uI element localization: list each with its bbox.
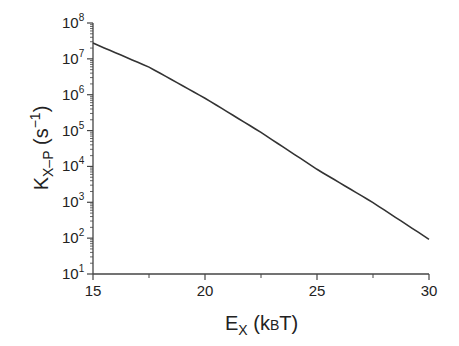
y-tick-label: 104 xyxy=(62,155,85,174)
x-tick-label: 20 xyxy=(197,282,214,299)
x-tick-label: 25 xyxy=(309,282,326,299)
x-axis-title: EX (kBT) xyxy=(225,312,298,338)
y-axis-ticks: 101102103104105106107108 xyxy=(62,12,93,282)
data-line xyxy=(93,43,429,239)
y-tick-label: 105 xyxy=(62,120,85,139)
y-tick-label: 107 xyxy=(62,48,85,67)
x-axis-ticks: 15202530 xyxy=(85,274,438,299)
x-tick-label: 15 xyxy=(85,282,102,299)
y-tick-label: 101 xyxy=(62,263,85,282)
y-axis-title: KX–P (s−1) xyxy=(27,106,56,191)
chart: 101102103104105106107108 15202530 EX (kB… xyxy=(0,0,459,346)
y-tick-label: 103 xyxy=(62,191,85,210)
y-tick-label: 102 xyxy=(62,227,85,246)
y-tick-label: 108 xyxy=(62,12,85,31)
x-tick-label: 30 xyxy=(421,282,438,299)
y-tick-label: 106 xyxy=(62,84,85,103)
